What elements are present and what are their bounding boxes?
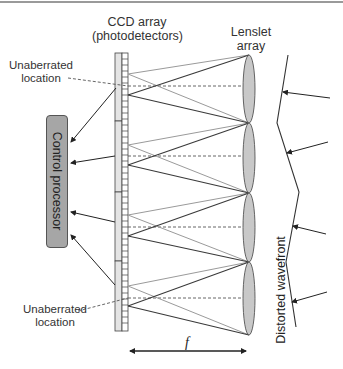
wavefront-arrows	[283, 92, 330, 302]
unab-top-line2: location	[6, 72, 76, 85]
lens-label-line1: Lenslet	[226, 26, 276, 40]
ccd-array-label: CCD array (photodetectors)	[92, 16, 182, 44]
unaberrated-location-top-label: Unaberrated location	[6, 59, 76, 84]
ccd-label-line2: (photodetectors)	[92, 30, 182, 44]
shack-hartmann-diagram: CCD array (photodetectors) Lenslet array…	[0, 0, 343, 369]
unaberrated-location-bottom-label: Unaberrated location	[20, 303, 90, 328]
reference-rays	[128, 55, 249, 335]
ccd-array	[115, 53, 128, 331]
signal-arrows	[71, 88, 116, 285]
ccd-label-line1: CCD array	[92, 16, 182, 30]
control-processor-label: Control processor	[50, 132, 64, 231]
unab-bot-line2: location	[20, 316, 90, 329]
focal-length-label: f	[185, 335, 189, 351]
lens-label-line2: array	[226, 40, 276, 54]
lenslet-array-label: Lenslet array	[226, 26, 276, 54]
unab-top-line1: Unaberrated	[6, 59, 76, 72]
distorted-wavefront-label: Distorted wavefront	[274, 236, 288, 344]
unab-bot-line1: Unaberrated	[20, 303, 90, 316]
